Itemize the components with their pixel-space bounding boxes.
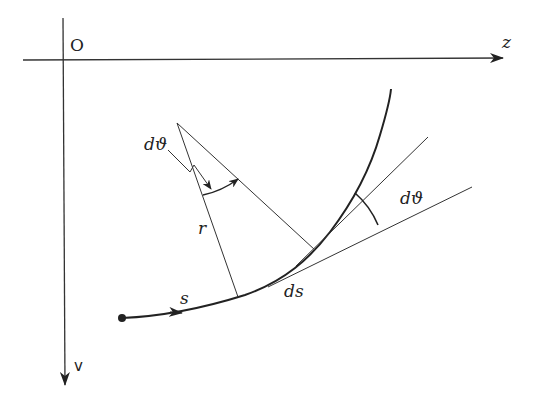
angle-label-leader xyxy=(168,150,211,189)
tangent-line-1 xyxy=(268,187,472,287)
radius-label: r xyxy=(198,220,206,237)
arc-length-label: s xyxy=(180,290,189,307)
diagram-svg xyxy=(0,0,538,403)
center-angle-label: dϑ xyxy=(144,136,167,153)
center-angle-arc xyxy=(203,179,238,195)
tangent-angle-label: dϑ xyxy=(400,190,423,207)
start-point xyxy=(118,314,126,322)
origin-label: O xyxy=(70,37,84,54)
z-axis xyxy=(23,58,503,60)
trajectory-curve xyxy=(122,89,391,318)
z-axis-label: z xyxy=(502,34,511,51)
v-axis xyxy=(63,18,65,385)
arc-element-label: ds xyxy=(284,283,304,300)
v-axis-label: v xyxy=(74,359,83,374)
diagram-canvas: O z v s ds r dϑ dϑ xyxy=(0,0,538,403)
radius-line-1 xyxy=(177,123,238,297)
